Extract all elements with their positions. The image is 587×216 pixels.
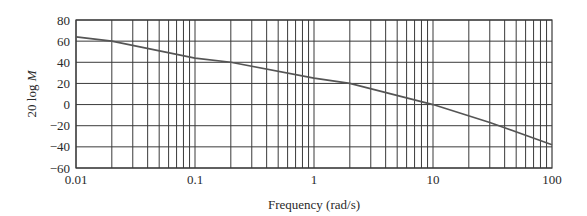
y-axis-ticks: 806040200−20−40−60 (50, 13, 70, 176)
x-axis-ticks: 0.010.1110100 (65, 172, 562, 187)
x-axis-label: Frequency (rad/s) (268, 197, 360, 212)
x-tick-label: 0.01 (65, 172, 88, 187)
y-tick-label: 0 (64, 97, 71, 112)
y-tick-label: −20 (50, 118, 70, 133)
y-axis-label: 20 log M (24, 69, 39, 117)
y-tick-label: 40 (57, 55, 70, 70)
y-tick-label: 80 (57, 13, 70, 28)
x-tick-label: 100 (542, 172, 562, 187)
y-tick-label: −40 (50, 139, 70, 154)
x-tick-label: 10 (427, 172, 440, 187)
y-tick-label: 20 (57, 76, 70, 91)
x-tick-label: 0.1 (187, 172, 203, 187)
grid (76, 20, 552, 168)
bode-magnitude-chart: 806040200−20−40−60 0.010.1110100 Frequen… (0, 0, 587, 216)
y-tick-label: 60 (57, 34, 70, 49)
x-tick-label: 1 (311, 172, 318, 187)
